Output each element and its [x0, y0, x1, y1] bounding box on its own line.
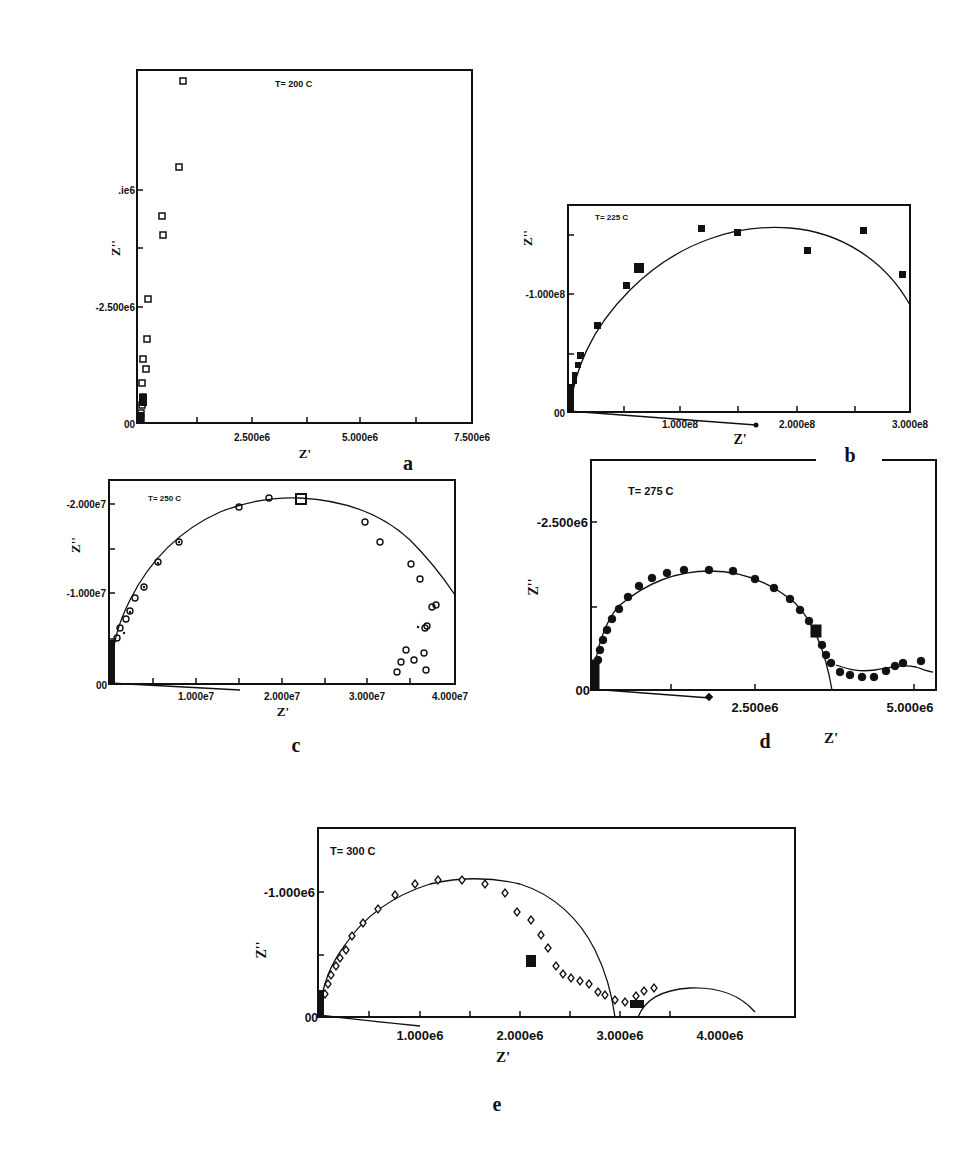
- y-tick-label: -1.000e6: [264, 885, 315, 900]
- y-tick-label: -1.000e8: [526, 289, 566, 300]
- data-markers: [322, 876, 657, 1006]
- origin-label: 00: [576, 683, 590, 698]
- data-markers: [114, 495, 439, 675]
- x-tick-label: 3.000e8: [892, 419, 929, 430]
- origin-label: 00: [96, 680, 108, 691]
- x-axis-title: Z': [277, 704, 289, 719]
- x-tick-label: 4.000e6: [697, 1028, 744, 1043]
- y-axis-title: Z'': [108, 240, 123, 256]
- panel-letter: c: [292, 734, 301, 756]
- panel-b: T= 225 C 1.000e8 2.000e8 3.000e8 -1.000e…: [520, 205, 929, 466]
- y-tick-label: -1.000e7: [67, 588, 107, 599]
- x-tick-label: 5.000e6: [342, 432, 379, 443]
- x-tick-label: 3.000e6: [597, 1028, 644, 1043]
- panel-letter: a: [403, 452, 413, 474]
- plot-frame: [318, 828, 795, 1017]
- y-axis-title: Z'': [254, 941, 269, 958]
- x-tick-label: 2.000e6: [497, 1028, 544, 1043]
- panel-d: T= 275 C 2.500e6 5.000e6 -2.500e6 00 Z' …: [526, 460, 936, 752]
- x-tick-label: 2.000e8: [779, 419, 816, 430]
- figure: T= 200 C 2.500e6 5.000e6 7.500e6 -2.500e…: [0, 0, 974, 1161]
- panel-letter: e: [493, 1093, 502, 1115]
- x-tick-label: 2.500e6: [234, 432, 271, 443]
- fit-curve-1: [319, 879, 615, 1017]
- y-axis-title: Z'': [68, 537, 83, 553]
- y-tick-label: -2.500e6: [537, 515, 588, 530]
- x-tick-label: 5.000e6: [887, 700, 934, 715]
- temperature-label: T= 275 C: [628, 485, 674, 497]
- x-tick-label: 4.000e7: [432, 691, 469, 702]
- origin-label: 00: [124, 419, 136, 430]
- x-axis-title: Z': [824, 730, 838, 746]
- panel-letter: b: [844, 444, 855, 466]
- temperature-label: T= 225 C: [595, 213, 628, 222]
- data-markers: [569, 225, 906, 411]
- plot-frame: [568, 205, 910, 412]
- fit-curve-2: [638, 988, 755, 1017]
- x-tick-label: 7.500e6: [454, 432, 491, 443]
- y-tick-label: -2.500e6: [96, 302, 136, 313]
- fit-curve: [110, 498, 455, 683]
- x-tick-label: 1.000e6: [397, 1028, 444, 1043]
- panel-a: T= 200 C 2.500e6 5.000e6 7.500e6 -2.500e…: [96, 70, 491, 474]
- x-axis-title: Z': [496, 1049, 510, 1065]
- x-tick-label: 3.000e7: [349, 691, 386, 702]
- plot-frame: [109, 480, 455, 684]
- fit-curve: [569, 227, 910, 411]
- y-tick-label: .ie6: [118, 185, 135, 196]
- y-axis-title: Z'': [526, 578, 541, 595]
- origin-label: 00: [305, 1011, 319, 1025]
- fit-curve-1: [592, 571, 832, 690]
- temperature-label: T= 300 C: [330, 845, 376, 857]
- x-tick-label: 2.000e7: [264, 691, 301, 702]
- x-axis-title: Z': [299, 446, 311, 461]
- origin-label: 00: [554, 408, 566, 419]
- x-axis-title: Z': [733, 432, 746, 447]
- plot-frame: [137, 70, 472, 423]
- temperature-label: T= 200 C: [275, 79, 313, 89]
- data-markers: [138, 78, 186, 422]
- data-markers: [592, 566, 925, 690]
- panel-letter: d: [759, 730, 770, 752]
- x-tick-label: 2.500e6: [732, 700, 779, 715]
- y-axis-title: Z'': [520, 230, 535, 246]
- temperature-label: T= 250 C: [148, 494, 181, 503]
- panel-c: T= 250 C 1.000e7 2.000e7 3.000e7 4.000e7…: [67, 480, 469, 756]
- x-tick-label: 1.000e7: [178, 691, 215, 702]
- y-tick-label: -2.000e7: [67, 499, 107, 510]
- panel-e: T= 300 C 1.000e6 2.000e6 3.000e6 4.000e6…: [254, 828, 795, 1115]
